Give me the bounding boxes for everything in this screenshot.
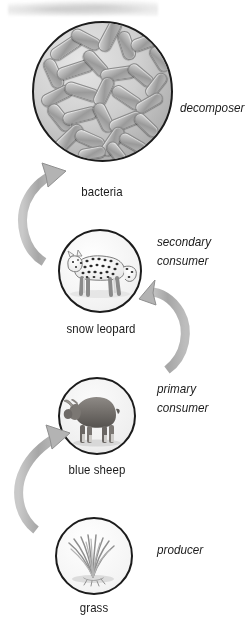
arrow-layer bbox=[0, 0, 249, 632]
food-chain-diagram: bacteria decomposer bbox=[0, 0, 249, 632]
arrow-grass-to-sheep bbox=[19, 425, 70, 530]
arrow-sheep-to-leopard bbox=[139, 280, 185, 370]
arrow-leopard-to-bacteria bbox=[23, 163, 66, 262]
